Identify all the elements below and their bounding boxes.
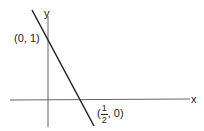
fraction: 12 [101,104,108,125]
y-intercept-label: (0, 1) [14,33,40,44]
graph-line [32,10,94,126]
x-intercept-label: (12, 0) [97,104,124,125]
x-axis [10,99,190,100]
x-axis-label: x [191,94,197,105]
y-axis-label: y [44,8,50,19]
